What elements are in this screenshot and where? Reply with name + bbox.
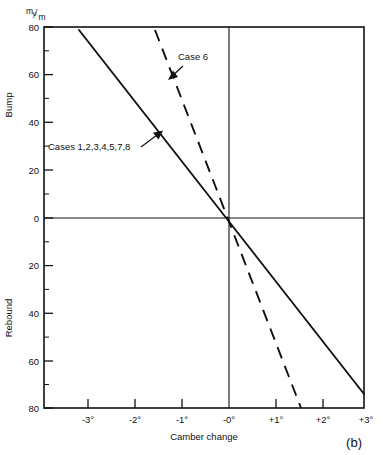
y-axis-label-bump: Bump (3, 93, 14, 118)
x-tick-label-plus-1: +1° (269, 414, 284, 425)
y-tick-label-bump-80: 80 (28, 22, 39, 33)
y-tick-label-bump-40: 40 (28, 117, 39, 128)
annotation-label-case-6: Case 6 (178, 51, 208, 62)
panel-label: (b) (346, 435, 362, 450)
x-tick-label-plus-2: +2° (316, 414, 331, 425)
y-tick-label-bump-20: 20 (28, 165, 39, 176)
y-tick-label-bump-60: 60 (28, 69, 39, 80)
y-axis-unit-label: m y / m (26, 6, 46, 22)
x-tick-label-zero: -0° (223, 414, 235, 425)
y-tick-label-rebound-60: 60 (28, 356, 39, 367)
x-tick-label-minus-1: -1° (176, 414, 188, 425)
x-axis-label: Camber change (170, 431, 238, 442)
y-axis-label-rebound: Rebound (3, 299, 14, 338)
y-tick-label-rebound-40: 40 (28, 308, 39, 319)
y-axis-unit-denominator: m (39, 12, 46, 22)
figure-panel-b: 80 60 40 20 0 20 40 60 80 -3° -2° -1° -0… (0, 0, 392, 455)
y-tick-label-rebound-20: 20 (28, 260, 39, 271)
y-tick-label-rebound-80: 80 (28, 403, 39, 414)
y-tick-label-zero: 0 (34, 213, 39, 224)
chart-svg: 80 60 40 20 0 20 40 60 80 -3° -2° -1° -0… (0, 0, 392, 455)
x-tick-label-plus-3: +3° (359, 414, 374, 425)
annotation-label-cases: Cases 1,2,3,4,5,7,8 (48, 141, 130, 152)
x-tick-label-minus-3: -3° (82, 414, 94, 425)
x-tick-label-minus-2: -2° (129, 414, 141, 425)
